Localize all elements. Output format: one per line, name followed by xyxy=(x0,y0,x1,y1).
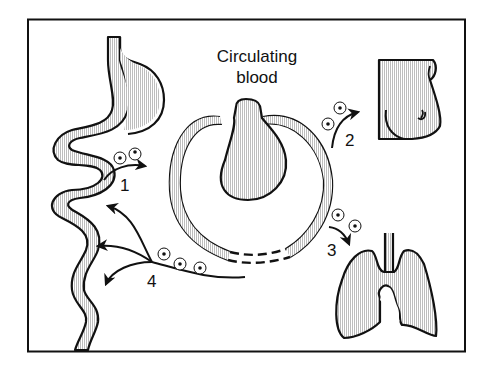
route-4-label: 4 xyxy=(147,273,156,290)
title-line-2: blood xyxy=(207,67,307,88)
circulation-diagram: Circulating blood 1 2 3 4 xyxy=(0,0,490,371)
particle-icon xyxy=(129,148,141,160)
title-line-1: Circulating xyxy=(207,46,307,67)
lungs xyxy=(336,233,436,338)
route-4 xyxy=(98,206,245,284)
gi-tract xyxy=(52,37,164,350)
route-2-label: 2 xyxy=(345,132,354,149)
breast xyxy=(379,60,440,139)
route-3 xyxy=(329,209,361,244)
route-3-label: 3 xyxy=(327,242,336,259)
heart xyxy=(221,99,286,200)
diagram-title: Circulating blood xyxy=(207,46,307,88)
route-1-label: 1 xyxy=(120,177,129,194)
